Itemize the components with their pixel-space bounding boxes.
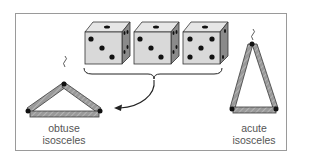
arrow — [114, 80, 154, 111]
acute-triangle — [230, 29, 279, 113]
obtuse-label-line1: obtuse — [29, 122, 99, 134]
brace — [84, 68, 222, 79]
obtuse-triangle — [26, 56, 103, 117]
acute-label-line2: isosceles — [219, 134, 289, 146]
die-1 — [85, 22, 130, 64]
obtuse-isosceles-label: obtuse isosceles — [29, 122, 99, 146]
acute-label-line1: acute — [219, 122, 289, 134]
acute-isosceles-label: acute isosceles — [219, 122, 289, 146]
die-2 — [134, 22, 179, 64]
die-3 — [183, 22, 228, 64]
obtuse-label-line2: isosceles — [29, 134, 99, 146]
